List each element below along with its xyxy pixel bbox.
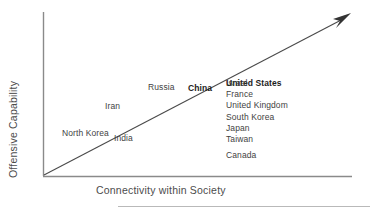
scatter-label-iran: Iran <box>105 101 120 111</box>
scatter-label-north-korea: North Korea <box>62 128 109 138</box>
cluster-label-canada: Canada <box>226 150 288 161</box>
scatter-label-china: China <box>188 83 212 93</box>
bottom-divider <box>118 206 370 207</box>
cluster-label-france: France <box>226 89 288 100</box>
scatter-label-russia: Russia <box>148 82 175 92</box>
chart-plot-area <box>0 0 370 214</box>
cluster-label-south-korea: South Korea <box>226 112 288 123</box>
cluster-label-israel: Israel <box>226 78 288 89</box>
cluster-label-list: Israel France United Kingdom South Korea… <box>226 78 288 161</box>
cluster-label-united-kingdom: United Kingdom <box>226 100 288 111</box>
trend-line <box>44 18 345 175</box>
cluster-label-japan: Japan <box>226 123 288 134</box>
x-axis-label: Connectivity within Society <box>96 184 226 196</box>
cluster-label-taiwan: Taiwan <box>226 134 288 145</box>
y-axis-label: Offensive Capability <box>7 8 21 178</box>
scatter-label-india: India <box>114 133 133 143</box>
trend-arrowhead-icon <box>333 13 351 28</box>
chart-container: Offensive Capability Connectivity within… <box>0 0 370 214</box>
